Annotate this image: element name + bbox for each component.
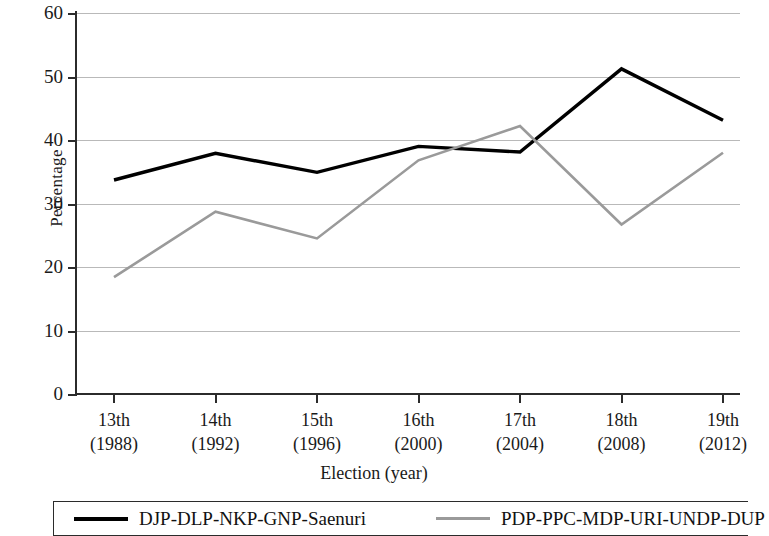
y-tick-mark [68, 13, 77, 15]
x-axis-title: Election (year) [0, 463, 748, 484]
plot-wrapper: Percentage 0102030405060 13th(1988)14th(… [0, 0, 748, 400]
legend-label-series-a: DJP-DLP-NKP-GNP-Saenuri [139, 509, 366, 528]
x-tick-mark [215, 394, 217, 403]
y-tick-label: 0 [21, 384, 63, 403]
y-tick-label: 20 [21, 257, 63, 276]
x-tick-label-ordinal: 16th [402, 410, 434, 430]
y-tick-mark [68, 77, 77, 79]
series-lines-layer [77, 13, 740, 394]
chart-legend: DJP-DLP-NKP-GNP-Saenuri PDP-PPC-MDP-URI-… [53, 501, 748, 536]
y-tick-label: 30 [21, 194, 63, 213]
y-tick-mark [68, 394, 77, 396]
legend-entry-series-b: PDP-PPC-MDP-URI-UNDP-DUP [436, 509, 765, 528]
legend-label-series-b: PDP-PPC-MDP-URI-UNDP-DUP [501, 509, 765, 528]
y-tick-mark [68, 331, 77, 333]
x-tick-label-ordinal: 18th [605, 410, 637, 430]
y-tick-mark [68, 267, 77, 269]
legend-line-icon-series-b [436, 517, 490, 520]
y-tick-mark [68, 140, 77, 142]
y-tick-label: 40 [21, 130, 63, 149]
x-tick-mark [722, 394, 724, 403]
x-tick-label-ordinal: 13th [98, 410, 130, 430]
x-tick-label: 19th(2012) [663, 408, 769, 456]
x-tick-mark [621, 394, 623, 403]
x-tick-mark [418, 394, 420, 403]
legend-entry-series-a: DJP-DLP-NKP-GNP-Saenuri [74, 509, 366, 528]
x-tick-mark [113, 394, 115, 403]
y-tick-label: 10 [21, 321, 63, 340]
y-tick-label: 60 [21, 3, 63, 22]
legend-line-icon-series-a [74, 517, 128, 521]
x-tick-label-ordinal: 19th [707, 410, 739, 430]
x-tick-label-ordinal: 17th [504, 410, 536, 430]
series-line-a [114, 69, 723, 180]
series-line-b [114, 126, 723, 277]
x-tick-mark [316, 394, 318, 403]
x-tick-label-ordinal: 14th [199, 410, 231, 430]
x-tick-label-year: (2012) [663, 432, 769, 456]
plot-area: 0102030405060 [77, 13, 740, 394]
x-tick-mark [519, 394, 521, 403]
x-tick-label-ordinal: 15th [301, 410, 333, 430]
y-tick-mark [68, 204, 77, 206]
y-tick-label: 50 [21, 67, 63, 86]
